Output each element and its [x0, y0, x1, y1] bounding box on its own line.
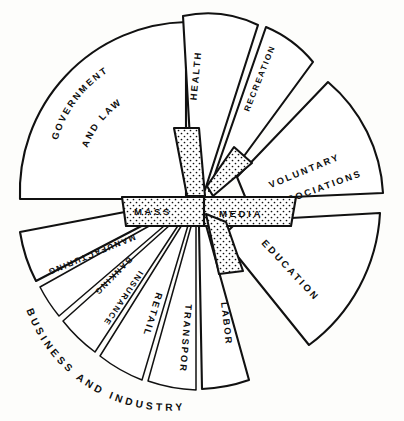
institutions-pie-diagram: GOVERNMENT AND LAW HEALTH RECREATION VOL… — [0, 0, 404, 421]
mass-media-label-media: MEDIA — [219, 208, 263, 219]
sector-government-and-law[interactable]: GOVERNMENT AND LAW — [20, 22, 186, 199]
diagram-canvas: GOVERNMENT AND LAW HEALTH RECREATION VOL… — [0, 0, 404, 421]
sector-shape-government-and-law[interactable] — [20, 22, 186, 199]
mass-media-label-mass: MASS — [134, 206, 172, 217]
sector-education[interactable]: EDUCATION — [222, 213, 380, 345]
